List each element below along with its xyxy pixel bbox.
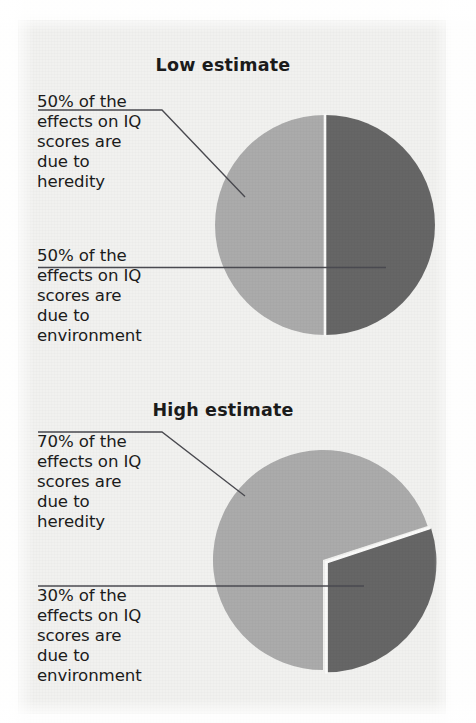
callout-heredity-low: 50% of the effects on IQ scores are due …	[37, 92, 187, 192]
scanned-page: Low estimate 50% of the effects on IQ sc…	[0, 0, 476, 723]
chart-low-estimate: Low estimate 50% of the effects on IQ sc…	[0, 0, 476, 362]
callout-environment-low: 50% of the effects on IQ scores are due …	[37, 246, 187, 346]
pie-slice-heredity-low[interactable]	[215, 115, 325, 335]
callout-heredity-high: 70% of the effects on IQ scores are due …	[37, 432, 187, 532]
callout-environment-high: 30% of the effects on IQ scores are due …	[37, 586, 187, 686]
chart-high-estimate: High estimate 70% of the effects on IQ s…	[0, 362, 476, 723]
pie-slice-environment-low[interactable]	[325, 115, 435, 335]
